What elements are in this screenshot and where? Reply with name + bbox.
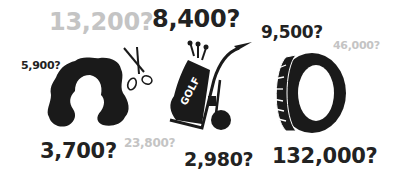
golf-estimate-bottom: 2,980? <box>184 150 253 169</box>
golf-estimate-top: 8,400? <box>152 7 240 31</box>
wig-estimate-bottom: 3,700? <box>40 141 117 162</box>
tire-icon <box>272 49 350 137</box>
golf-cart-icon: GOLF <box>164 40 264 140</box>
scissors-icon <box>122 46 154 92</box>
tire-estimate-top: 9,500? <box>261 24 323 41</box>
wig-estimate-gray: 13,200? <box>49 10 153 34</box>
tire-estimate-bottom: 132,000? <box>272 146 377 167</box>
